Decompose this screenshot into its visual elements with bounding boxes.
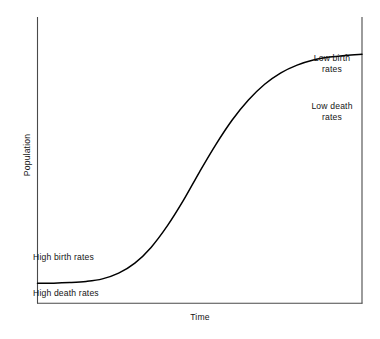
annotation-high-death-rates: High death rates bbox=[33, 288, 99, 299]
annotation-high-birth-rates: High birth rates bbox=[33, 252, 94, 263]
x-axis-label: Time bbox=[150, 312, 250, 322]
annotation-low-birth-rates: Low birth rates bbox=[303, 53, 361, 74]
population-growth-curve bbox=[38, 54, 363, 283]
demographic-transition-chart: High birth rates High death rates Low bi… bbox=[0, 0, 380, 339]
y-axis-label: Population bbox=[22, 107, 34, 203]
annotation-low-death-rates: Low death rates bbox=[303, 101, 361, 122]
